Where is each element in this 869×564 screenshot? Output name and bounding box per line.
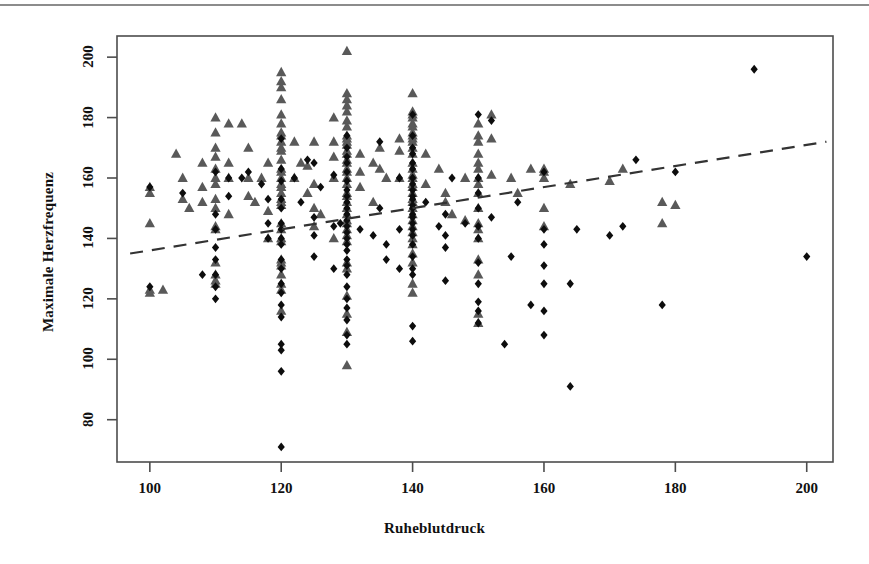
data-point xyxy=(448,174,455,183)
data-point xyxy=(224,157,234,166)
y-axis-label: Maximale Herzfrequenz xyxy=(40,102,57,402)
data-point xyxy=(197,197,207,206)
data-point xyxy=(197,182,207,191)
data-point xyxy=(304,155,311,164)
data-point xyxy=(278,346,285,355)
data-point xyxy=(475,110,482,119)
data-point xyxy=(310,158,317,167)
data-point xyxy=(310,213,317,222)
data-point xyxy=(302,188,312,197)
data-point xyxy=(442,231,449,240)
data-point xyxy=(383,240,390,249)
data-point xyxy=(276,67,286,76)
data-point xyxy=(342,360,352,369)
data-point xyxy=(171,148,181,157)
data-point xyxy=(210,151,220,160)
data-point xyxy=(237,118,247,127)
data-point xyxy=(488,213,495,222)
data-point xyxy=(422,198,429,207)
y-axis-ticks xyxy=(107,57,117,420)
data-point xyxy=(473,148,483,157)
y-tick-label: 200 xyxy=(80,32,97,82)
data-point xyxy=(263,206,273,215)
data-point xyxy=(276,109,286,118)
data-point xyxy=(355,148,365,157)
data-point xyxy=(486,170,496,179)
data-point xyxy=(540,240,547,249)
data-point xyxy=(540,331,547,340)
data-point xyxy=(632,155,639,164)
data-point xyxy=(145,218,155,227)
data-point xyxy=(278,300,285,309)
data-point xyxy=(407,278,417,287)
x-axis-label: Ruheblutdruck xyxy=(0,520,869,537)
data-point xyxy=(310,252,317,261)
data-point xyxy=(296,157,306,166)
data-point xyxy=(278,442,285,451)
plot-frame xyxy=(117,36,833,462)
data-point xyxy=(245,168,252,177)
data-point xyxy=(381,173,391,182)
data-point xyxy=(212,294,219,303)
data-point xyxy=(329,112,339,121)
data-point xyxy=(659,300,666,309)
data-point xyxy=(540,307,547,316)
data-point xyxy=(356,225,363,234)
data-point xyxy=(278,367,285,376)
data-point xyxy=(475,297,482,306)
data-point xyxy=(527,300,534,309)
data-point xyxy=(342,46,352,55)
data-point xyxy=(276,94,286,103)
data-point xyxy=(199,270,206,279)
data-point xyxy=(473,269,483,278)
data-point xyxy=(421,148,431,157)
data-point xyxy=(606,231,613,240)
x-tick-label: 160 xyxy=(519,480,569,497)
data-point xyxy=(751,65,758,74)
data-point xyxy=(567,382,574,391)
y-tick-label: 180 xyxy=(80,92,97,142)
data-point xyxy=(376,137,383,146)
data-points-layer xyxy=(145,46,811,452)
data-point xyxy=(383,255,390,264)
data-point xyxy=(276,154,286,163)
data-point xyxy=(197,157,207,166)
y-tick-label: 160 xyxy=(80,153,97,203)
data-point xyxy=(440,197,450,206)
x-tick-label: 180 xyxy=(650,480,700,497)
data-point xyxy=(567,279,574,288)
data-point xyxy=(224,118,234,127)
data-point xyxy=(407,287,417,296)
data-point xyxy=(309,136,319,145)
data-point xyxy=(657,197,667,206)
y-tick-label: 140 xyxy=(80,213,97,263)
data-point xyxy=(514,198,521,207)
data-point xyxy=(309,203,319,212)
data-point xyxy=(540,279,547,288)
data-point xyxy=(442,243,449,252)
y-tick-label: 120 xyxy=(80,273,97,323)
data-point xyxy=(409,270,416,279)
data-point xyxy=(409,322,416,331)
data-point xyxy=(435,222,442,231)
data-point xyxy=(243,191,253,200)
data-point xyxy=(540,261,547,270)
data-point xyxy=(394,133,404,142)
data-point xyxy=(243,142,253,151)
data-point xyxy=(317,183,324,192)
data-point xyxy=(212,243,219,252)
data-point xyxy=(210,127,220,136)
data-point xyxy=(618,164,628,173)
data-point xyxy=(158,284,168,293)
data-point xyxy=(407,88,417,97)
data-point xyxy=(370,231,377,240)
data-point xyxy=(672,168,679,177)
data-point xyxy=(573,225,580,234)
data-point xyxy=(409,337,416,346)
data-point xyxy=(343,282,350,291)
data-point xyxy=(440,188,450,197)
data-point xyxy=(330,264,337,273)
data-point xyxy=(657,218,667,227)
x-tick-label: 120 xyxy=(256,480,306,497)
data-point xyxy=(329,151,339,160)
